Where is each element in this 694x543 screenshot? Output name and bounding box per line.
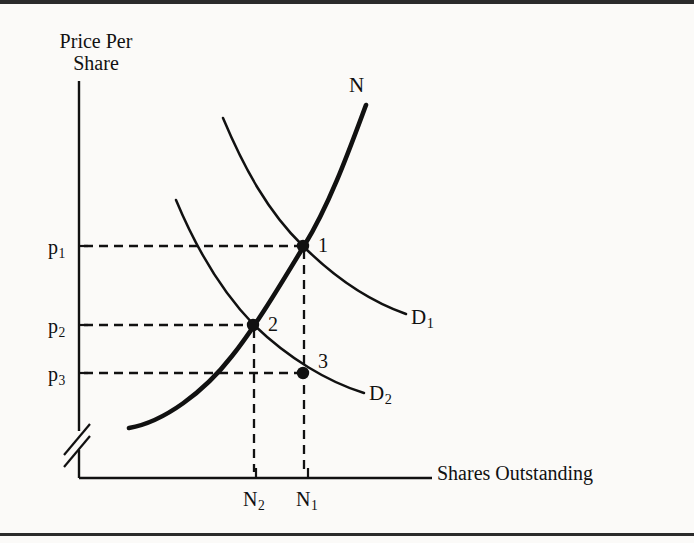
- y-tick-label-p1: p1: [48, 236, 65, 261]
- y-tick-label-p3-base: p: [48, 363, 58, 385]
- x-axis-title: Shares Outstanding: [437, 462, 593, 484]
- x-tick-label-n1-base: N: [296, 488, 310, 510]
- y-axis-title: Price Per Share: [36, 30, 156, 75]
- y-axis-title-line-1: Price Per: [36, 30, 156, 52]
- y-tick-label-p3-subscript: 3: [58, 373, 65, 388]
- curve-label-n: N: [349, 74, 364, 98]
- data-point-label-1: 1: [318, 234, 328, 256]
- curve-d1: [223, 118, 406, 314]
- x-tick-label-n1-subscript: 1: [310, 498, 317, 513]
- y-tick-label-p1-subscript: 1: [58, 246, 65, 261]
- y-tick-label-p2-base: p: [48, 315, 58, 337]
- curve-label-d2: D2: [369, 382, 392, 407]
- curve-label-d1-subscript: 1: [426, 315, 434, 331]
- curve-label-d2-subscript: 2: [384, 391, 392, 407]
- y-axis-title-line-2: Share: [36, 52, 156, 74]
- x-tick-label-n1: N1: [296, 488, 318, 513]
- curve-label-d2-base: D: [369, 381, 384, 405]
- curve-d2: [176, 200, 364, 393]
- y-tick-label-p1-base: p: [48, 236, 58, 258]
- data-point-2-marker: [247, 319, 259, 331]
- figure-container: Price Per Share Shares Outstanding p1 p2…: [0, 0, 694, 543]
- x-tick-label-n2-subscript: 2: [257, 498, 264, 513]
- curve-label-d1-base: D: [411, 305, 426, 329]
- data-point-label-3: 3: [318, 350, 328, 372]
- data-point-1-marker: [297, 240, 309, 252]
- data-point-label-2: 2: [268, 313, 278, 335]
- x-tick-label-n2: N2: [243, 488, 265, 513]
- x-tick-label-n2-base: N: [243, 488, 257, 510]
- curve-label-d1: D1: [411, 306, 434, 331]
- y-tick-label-p2: p2: [48, 315, 65, 340]
- data-point-3-marker: [297, 367, 309, 379]
- y-tick-label-p2-subscript: 2: [58, 325, 65, 340]
- y-tick-label-p3: p3: [48, 363, 65, 388]
